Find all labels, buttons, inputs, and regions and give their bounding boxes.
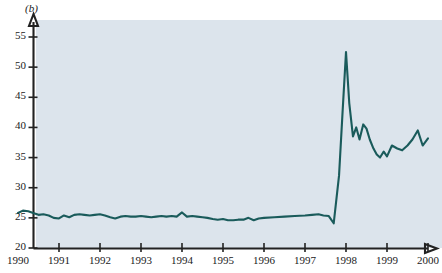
y-tick-label: 55	[0, 29, 26, 41]
y-tick-label: 20	[0, 240, 26, 252]
x-tick-label: 1998	[326, 254, 366, 266]
x-tick-label: 1999	[367, 254, 407, 266]
x-tick-label: 1995	[203, 254, 243, 266]
x-tick-label: 1997	[285, 254, 325, 266]
y-tick-label: 30	[0, 180, 26, 192]
x-tick-label: 1992	[80, 254, 120, 266]
x-tick-label: 1991	[39, 254, 79, 266]
chart-svg	[0, 0, 442, 273]
y-tick-label: 40	[0, 119, 26, 131]
axes-group	[29, 14, 437, 253]
figure-panel-b: (b) 2025303540455055 1990199119921993199…	[0, 0, 442, 273]
data-line-series-1	[18, 52, 428, 223]
x-tick-label: 1994	[162, 254, 202, 266]
y-tick-label: 35	[0, 150, 26, 162]
y-tick-label: 50	[0, 59, 26, 71]
y-tick-label: 45	[0, 89, 26, 101]
y-tick-label: 25	[0, 210, 26, 222]
x-tick-label: 1993	[121, 254, 161, 266]
data-series-group	[18, 52, 428, 223]
x-tick-label: 1996	[244, 254, 284, 266]
x-tick-label: 2000	[408, 254, 442, 266]
x-tick-label: 1990	[0, 254, 38, 266]
